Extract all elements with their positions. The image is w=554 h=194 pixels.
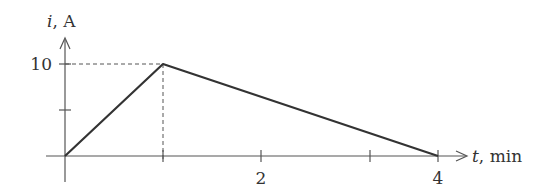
current-vs-time-chart: 2410 i, A t, min [0,0,554,194]
current-curve [65,64,438,156]
y-axis-label: i, A [47,11,76,31]
x-axis-label: t, min [472,146,522,166]
x-tick-label: 2 [256,168,267,188]
tick-labels: 2410 [30,54,443,188]
axis-ticks [59,64,438,162]
x-tick-label: 4 [433,168,444,188]
y-tick-label: 10 [30,54,52,74]
